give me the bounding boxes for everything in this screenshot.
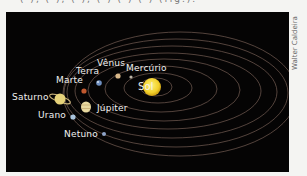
neptune-icon [102, 132, 106, 136]
venus-icon [115, 73, 120, 78]
solar-system-diagram: Sol Mercúrio Vênus Terra Marte Júpiter S… [6, 12, 289, 172]
saturn-icon [49, 92, 72, 105]
photo-credit: Walter Caldeira [291, 0, 303, 70]
label-sol: Sol [138, 81, 154, 92]
label-marte: Marte [56, 75, 83, 85]
mars-icon [81, 88, 86, 93]
label-saturno: Saturno [12, 92, 49, 102]
label-netuno: Netuno [64, 129, 98, 139]
label-urano: Urano [38, 110, 66, 120]
label-venus: Vênus [97, 58, 125, 68]
label-jupiter: Júpiter [97, 103, 128, 113]
earth-icon [96, 80, 102, 86]
cropped-caption: ( ), ( ), ( ), ( ) ( ) ( ) (fig.). [20, 0, 300, 5]
mercury-icon [129, 75, 132, 78]
uranus-icon [70, 114, 75, 119]
label-mercurio: Mercúrio [126, 63, 167, 73]
jupiter-icon [81, 102, 91, 113]
